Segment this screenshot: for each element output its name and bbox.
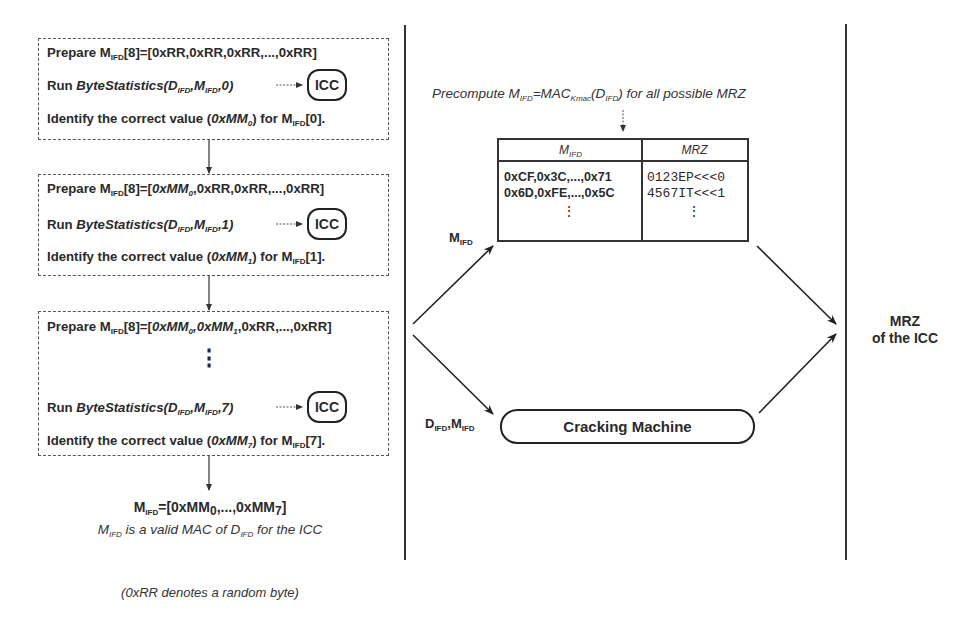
prepare-line-3: Prepare MIFD[8]=[0xMM0,0xMM1,0xRR,...,0x… <box>47 319 332 335</box>
table-ellipsis-mrz: ⋮ <box>679 209 709 214</box>
result-mrz-label: MRZ of the ICC <box>855 313 955 347</box>
table-row: 0123EP<<<0 <box>647 170 725 185</box>
icc-badge-2: ICC <box>307 208 347 240</box>
run-line-1: Run ByteStatistics(DIFD,MIFD,0) <box>47 78 233 94</box>
table-header-mrz: MRZ <box>642 140 747 162</box>
final-mac-result: MIFD=[0xMM0,...,0xMM7] <box>40 499 380 518</box>
table-ellipsis-mac: ⋮ <box>554 209 584 214</box>
icc-badge-3: ICC <box>307 391 347 423</box>
identify-line-3: Identify the correct value (0xMM7) for M… <box>47 433 325 449</box>
table-row: 0x6D,0xFE,...,0x5C <box>504 186 614 201</box>
prepare-line-2: Prepare MIFD[8]=[0xMM0,0xRR,0xRR,...,0xR… <box>47 181 324 197</box>
cracking-machine-box: Cracking Machine <box>500 409 755 444</box>
identify-line-2: Identify the correct value (0xMM1) for M… <box>47 249 325 265</box>
table-header-mac: MIFD <box>499 140 642 162</box>
table-row: 0xCF,0x3C,...,0x71 <box>504 170 612 185</box>
table-column-divider <box>641 140 643 240</box>
arrow-label-data-mac: DIFD,MIFD <box>425 416 475 431</box>
precomputed-mac-table: MIFD MRZ 0xCF,0x3C,...,0x71 0123EP<<<0 0… <box>497 138 749 242</box>
final-mac-description: MIFD is a valid MAC of DIFD for the ICC <box>40 522 380 537</box>
icc-badge-1: ICC <box>307 69 347 101</box>
identify-line-1: Identify the correct value (0xMM0) for M… <box>47 111 325 127</box>
step-box-3: Prepare MIFD[8]=[0xMM0,0xMM1,0xRR,...,0x… <box>38 311 389 456</box>
run-line-3: Run ByteStatistics(DIFD,MIFD,7) <box>47 400 233 416</box>
prepare-line-1: Prepare MIFD[8]=[0xRR,0xRR,0xRR,...,0xRR… <box>47 45 317 61</box>
run-line-2: Run ByteStatistics(DIFD,MIFD,1) <box>47 217 233 233</box>
table-row: 4567IT<<<1 <box>647 186 725 201</box>
footnote-random-byte: (0xRR denotes a random byte) <box>40 585 380 600</box>
precompute-caption: Precompute MIFD=MACKmac(DIFD) for all po… <box>432 86 746 101</box>
ellipsis-vertical: ⋮ <box>194 354 224 361</box>
arrow-label-mac: MIFD <box>449 230 473 245</box>
